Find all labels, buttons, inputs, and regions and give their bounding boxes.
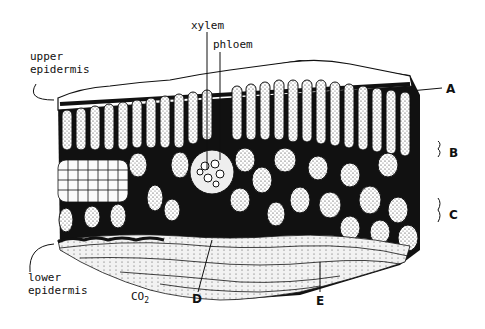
label-C: C	[449, 208, 458, 222]
label-upper-epidermis-line1: upper	[30, 50, 63, 63]
upper-epidermis-leader	[33, 84, 54, 100]
brace-C	[438, 198, 440, 222]
label-phloem: phloem	[213, 38, 253, 51]
label-lower-epidermis-line1: lower	[28, 271, 61, 284]
vascular-bundle	[190, 150, 234, 194]
label-A: A	[446, 82, 455, 96]
label-upper-epidermis: upper epidermis	[30, 50, 90, 76]
label-co2: CO2	[131, 290, 149, 304]
label-xylem: xylem	[191, 19, 224, 32]
leaf-cross-section-diagram: upper epidermis xylem phloem lower epide…	[0, 0, 485, 329]
left-tissue-block	[58, 160, 128, 202]
label-lower-epidermis: lower epidermis	[28, 271, 88, 297]
label-co2-main: CO	[131, 290, 144, 303]
label-D: D	[192, 292, 202, 306]
label-upper-epidermis-line2: epidermis	[30, 63, 90, 76]
brace-B	[438, 141, 440, 157]
lower-epidermis-leader	[30, 244, 54, 272]
lower-epidermis-cells	[58, 235, 410, 300]
label-B: B	[449, 146, 458, 160]
label-lower-epidermis-line2: epidermis	[28, 284, 88, 297]
label-co2-subscript: 2	[144, 296, 149, 305]
label-E: E	[316, 294, 324, 308]
